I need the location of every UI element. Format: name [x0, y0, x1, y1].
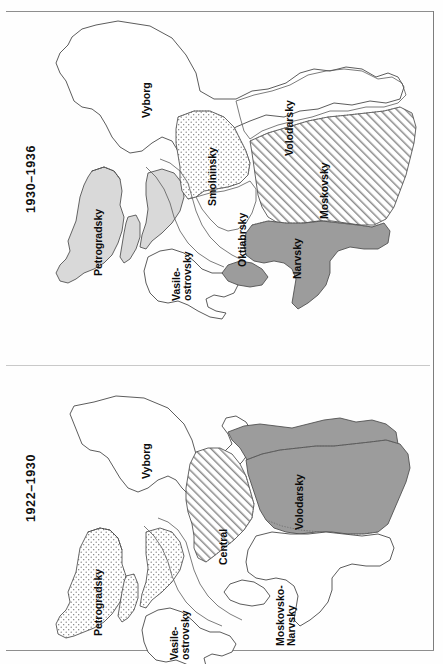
district-shape-petrogradsky-1922 [56, 528, 126, 638]
map-panel-1922-1930: 1922–1930 [0, 366, 443, 650]
map-figure-1922-1930 [0, 366, 443, 650]
map-figure-1930-1936 [0, 11, 443, 365]
district-shape-volodarsky-main [246, 440, 410, 534]
district-shape-vasile-ostrovsky [144, 249, 238, 319]
district-shape-moskovsky [250, 107, 416, 225]
district-shape-moskovsko-narvsky-1922 [246, 532, 394, 626]
district-shape-petrogradsky [56, 167, 124, 283]
district-shape-vasile-ostrovsky-1922 [140, 528, 184, 608]
district-shape-narvsky [244, 221, 390, 309]
district-shape-petrogradsky-island [140, 169, 184, 249]
district-shape-central-1922 [186, 448, 254, 562]
scanned-page: 1930–1936 [0, 0, 443, 664]
district-shape-moskovsko-narvsky-spur-1922 [224, 580, 270, 606]
district-shape-vasile-ostrovsky-island-1922 [142, 608, 236, 664]
map-panel-1930-1936: 1930–1936 [0, 11, 443, 365]
